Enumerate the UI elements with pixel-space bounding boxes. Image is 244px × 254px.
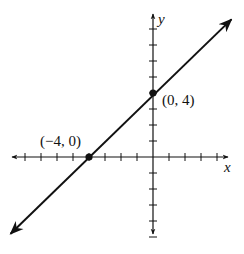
y-axis-label: y — [156, 11, 165, 27]
point-a-label: (−4, 0) — [40, 133, 81, 150]
point-y-intercept — [149, 89, 156, 96]
point-b-label: (0, 4) — [162, 92, 195, 109]
point-x-intercept — [85, 153, 92, 160]
line-series — [11, 19, 232, 233]
coordinate-plane: (−4, 0) (0, 4) x y — [0, 0, 244, 254]
x-axis-label: x — [223, 159, 231, 175]
